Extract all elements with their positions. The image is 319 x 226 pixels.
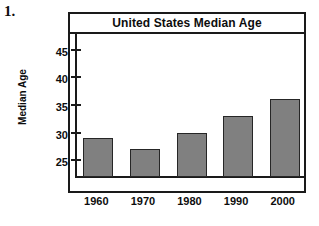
value-axis-label-30: 30: [46, 130, 68, 141]
value-axis-title: Median Age: [18, 60, 28, 134]
plot-region: [70, 34, 304, 191]
category-axis-label-1990: 1990: [214, 196, 258, 207]
value-axis-tick-40: [71, 76, 81, 78]
bar-1960: [83, 138, 113, 177]
category-axis-label-1960: 1960: [74, 196, 118, 207]
value-axis-tick-25: [71, 159, 81, 161]
bar-1970: [130, 149, 160, 177]
category-axis-label-1970: 1970: [121, 196, 165, 207]
value-axis-label-40: 40: [46, 74, 68, 85]
value-axis-label-25: 25: [46, 157, 68, 168]
category-axis-labels: 19601970198019902000: [68, 196, 306, 214]
chart-frame: United States Median Age: [68, 12, 306, 193]
problem-number: 1.: [4, 4, 15, 19]
value-axis-tick-45: [71, 49, 81, 51]
chart-title-band: United States Median Age: [70, 14, 304, 34]
value-axis-label-45: 45: [46, 47, 68, 58]
value-axis-tick-30: [71, 132, 81, 134]
bar-1980: [177, 133, 207, 177]
category-axis-label-2000: 2000: [261, 196, 305, 207]
chart-title: United States Median Age: [112, 17, 261, 29]
value-axis-line: [75, 34, 77, 178]
category-axis-label-1980: 1980: [168, 196, 212, 207]
value-axis-label-35: 35: [46, 102, 68, 113]
value-axis-labels: 2530354045: [42, 12, 68, 193]
bar-2000: [270, 99, 300, 177]
bar-1990: [223, 116, 253, 177]
value-axis-tick-35: [71, 104, 81, 106]
